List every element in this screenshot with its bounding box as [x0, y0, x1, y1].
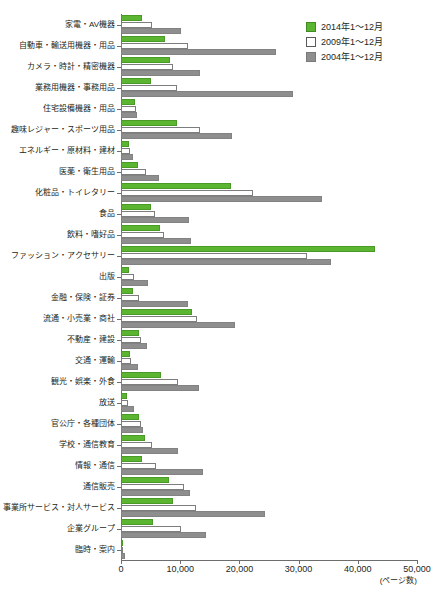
category-label: 学校・通信教育 [59, 440, 115, 449]
bar [121, 372, 161, 378]
bar [121, 225, 160, 231]
category-label: 業務用機器・事務用品 [35, 83, 115, 92]
bar [121, 484, 184, 490]
bar [121, 343, 147, 349]
category-label: 不動産・建設 [67, 335, 115, 344]
bar [121, 57, 170, 63]
x-axis-tick-label: 50,000 [403, 564, 431, 574]
category-axis-labels: 家電・AV機器自動車・輸送用機器・用品カメラ・時計・精密機器業務用機器・事務用品… [0, 14, 115, 560]
bar [121, 427, 143, 433]
bar [121, 85, 177, 91]
x-axis-tick-label: 20,000 [226, 564, 254, 574]
bar [121, 526, 181, 532]
bar [121, 253, 307, 259]
category-label: カメラ・時計・精密機器 [27, 62, 115, 71]
bar [121, 540, 123, 546]
bar [121, 43, 188, 49]
bar [121, 246, 375, 252]
y-axis-tick [117, 340, 121, 341]
bar [121, 322, 235, 328]
category-label: 化粧品・トイレタリー [35, 188, 115, 197]
y-axis-tick [117, 130, 121, 131]
category-label: 流通・小売業・商社 [43, 314, 115, 323]
bar [121, 463, 156, 469]
y-axis-tick [117, 193, 121, 194]
bar [121, 400, 128, 406]
bar [121, 64, 173, 70]
bar [121, 70, 200, 76]
bar [121, 547, 123, 553]
category-label: 事業所サービス・対人サービス [3, 503, 115, 512]
y-axis-tick [117, 319, 121, 320]
y-axis-tick [117, 46, 121, 47]
x-axis-tick-label: 0 [118, 564, 123, 574]
bar [121, 141, 129, 147]
x-axis-tick-label: 10,000 [166, 564, 194, 574]
category-label: 交通・運輸 [75, 356, 115, 365]
bar [121, 379, 178, 385]
bar [121, 295, 139, 301]
bar [121, 28, 181, 34]
category-label: 自動車・輸送用機器・用品 [19, 41, 115, 50]
category-label: 家電・AV機器 [65, 20, 115, 29]
bar [121, 414, 139, 420]
bar [121, 120, 177, 126]
bar [121, 316, 197, 322]
bar [121, 78, 151, 84]
bar [121, 519, 153, 525]
bar [121, 204, 151, 210]
category-label: 金融・保険・証券 [51, 293, 115, 302]
y-axis-tick [117, 298, 121, 299]
bar [121, 238, 191, 244]
bar [121, 99, 135, 105]
bar [121, 358, 131, 364]
bar [121, 435, 145, 441]
bar [121, 448, 178, 454]
bar [121, 280, 148, 286]
bar [121, 259, 331, 265]
bar [121, 154, 133, 160]
bar [121, 162, 138, 168]
x-axis-tick-label: 30,000 [285, 564, 313, 574]
bar [121, 532, 206, 538]
plot-area [121, 14, 417, 560]
bar [121, 196, 322, 202]
category-label: 観光・娯楽・外食 [51, 377, 115, 386]
bar [121, 183, 231, 189]
bar [121, 169, 146, 175]
bar [121, 393, 127, 399]
y-axis-tick [117, 67, 121, 68]
y-axis-tick [117, 508, 121, 509]
y-axis-tick [117, 151, 121, 152]
bar [121, 442, 152, 448]
y-axis-tick [117, 361, 121, 362]
y-axis-tick [117, 235, 121, 236]
y-axis-tick [117, 256, 121, 257]
y-axis-tick [117, 403, 121, 404]
bar [121, 337, 141, 343]
bar [121, 421, 141, 427]
x-axis-unit-label: (ページ数) [380, 576, 417, 585]
bar [121, 15, 142, 21]
bar [121, 505, 196, 511]
bar [121, 330, 139, 336]
y-axis-tick [117, 88, 121, 89]
y-axis-tick [117, 466, 121, 467]
bar [121, 406, 134, 412]
x-axis-line [121, 560, 417, 561]
bar [121, 301, 188, 307]
bar [121, 91, 293, 97]
bar [121, 274, 134, 280]
bar [121, 477, 169, 483]
category-label: 趣味レジャー・スポーツ用品 [11, 125, 115, 134]
bar [121, 385, 199, 391]
category-label: 情報・通信 [75, 461, 115, 470]
category-label: ファッション・アクセサリー [11, 251, 115, 260]
category-label: 食品 [99, 209, 115, 218]
bar-rows [121, 14, 417, 560]
y-axis-tick [117, 25, 121, 26]
x-axis-tick-label: 40,000 [344, 564, 372, 574]
bar [121, 232, 164, 238]
category-label: エネルギー・原材料・建材 [19, 146, 115, 155]
bar [121, 127, 200, 133]
